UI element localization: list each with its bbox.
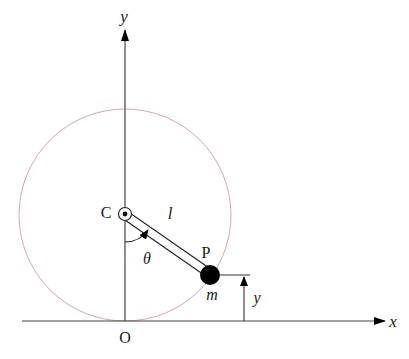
y-axis-label: y bbox=[118, 7, 128, 26]
angle-arc bbox=[125, 230, 148, 242]
mass-label: m bbox=[206, 286, 218, 303]
origin-label: O bbox=[119, 329, 131, 346]
rod-length-label: l bbox=[168, 204, 173, 223]
x-axis-label: x bbox=[388, 312, 397, 331]
point-label: P bbox=[202, 244, 211, 261]
pendulum-diagram: y x O C l θ P m y bbox=[0, 0, 409, 359]
pivot-label: C bbox=[101, 204, 112, 221]
height-label: y bbox=[251, 289, 261, 307]
angle-label: θ bbox=[143, 250, 151, 267]
mass-bob bbox=[200, 265, 220, 285]
pivot-icon bbox=[119, 208, 132, 221]
